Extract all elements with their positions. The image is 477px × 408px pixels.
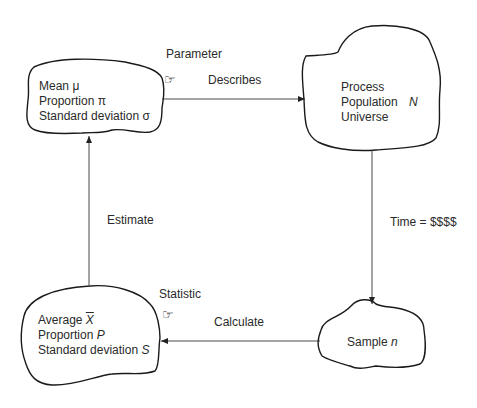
statistic-proportion-label: Proportion — [38, 328, 93, 342]
parameter-node: Mean μ Proportion π Standard deviation σ — [39, 79, 150, 124]
sample-label: Sample — [347, 335, 388, 349]
edge-label-time: Time = $$$$ — [390, 215, 457, 230]
statistic-sd-label: Standard deviation — [38, 343, 138, 357]
population-process-line: Process — [341, 80, 418, 95]
statistic-proportion-line: Proportion P — [38, 328, 149, 343]
pointing-hand-icon: ☞ — [164, 73, 176, 86]
population-n-symbol: N — [409, 95, 418, 109]
parameter-proportion-symbol: π — [98, 94, 106, 108]
parameter-sd-line: Standard deviation σ — [39, 109, 150, 124]
sample-n-symbol: n — [391, 335, 398, 349]
statistic-average-line: Average X — [38, 313, 149, 328]
statistic-p-symbol: P — [97, 328, 105, 342]
parameter-mean-label: Mean — [39, 79, 69, 93]
pointing-hand-icon: ☞ — [162, 308, 174, 321]
edge-label-calculate: Calculate — [214, 315, 264, 330]
population-universe-line: Universe — [341, 110, 418, 125]
parameter-mean-line: Mean μ — [39, 79, 150, 94]
parameter-sd-label: Standard deviation — [39, 109, 139, 123]
statistic-sd-line: Standard deviation S — [38, 343, 149, 358]
statistic-node: Average X Proportion P Standard deviatio… — [38, 313, 149, 358]
parameter-sd-symbol: σ — [142, 109, 149, 123]
sample-node: Sample n — [347, 335, 398, 350]
statistic-s-symbol: S — [141, 343, 149, 357]
parameter-proportion-line: Proportion π — [39, 94, 150, 109]
population-population-label: Population — [341, 95, 398, 109]
parameter-proportion-label: Proportion — [39, 94, 94, 108]
population-population-line: Population N — [341, 95, 418, 110]
statistic-annotation: Statistic — [159, 287, 201, 302]
statistic-xbar-symbol: X — [86, 313, 94, 327]
population-node: Process Population N Universe — [341, 80, 418, 125]
edge-label-describes: Describes — [208, 73, 261, 88]
parameter-mean-symbol: μ — [72, 79, 79, 93]
parameter-annotation: Parameter — [166, 47, 222, 62]
statistic-average-label: Average — [38, 313, 82, 327]
edge-label-estimate: Estimate — [107, 213, 154, 228]
